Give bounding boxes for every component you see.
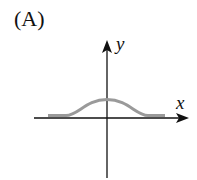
graph: y x — [0, 0, 197, 180]
y-axis-label: y — [114, 33, 125, 54]
x-axis-label: x — [175, 92, 185, 113]
